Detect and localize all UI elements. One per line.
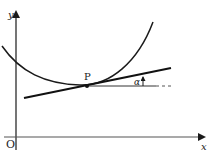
angle-alpha-label: α xyxy=(134,77,140,87)
y-axis-label: y xyxy=(7,9,14,20)
tangent-diagram: y x O P α xyxy=(0,0,218,154)
point-p xyxy=(85,84,89,88)
point-p-label: P xyxy=(84,71,91,82)
origin-label: O xyxy=(6,138,15,151)
x-axis-label: x xyxy=(201,141,207,152)
tangent-line xyxy=(24,68,171,98)
